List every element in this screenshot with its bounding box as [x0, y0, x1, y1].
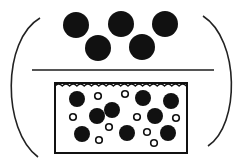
gas-particle: [63, 12, 89, 38]
small-particle: [134, 114, 141, 121]
large-particle: [69, 91, 85, 107]
large-particle: [119, 125, 135, 141]
gas-particle: [152, 11, 178, 37]
small-particle: [106, 124, 113, 131]
large-particle: [135, 90, 151, 106]
small-particle: [70, 114, 77, 121]
large-particle: [160, 125, 176, 141]
small-particle: [96, 137, 103, 144]
large-particle: [147, 108, 163, 124]
liquid-container: [55, 83, 187, 153]
small-particle: [151, 140, 158, 147]
gas-particles: [63, 11, 178, 61]
large-particle: [163, 93, 179, 109]
liquid-surface-wave: [55, 84, 186, 86]
left-parenthesis: [11, 18, 40, 157]
gas-particle: [129, 34, 155, 60]
large-particle: [104, 102, 120, 118]
large-particle: [89, 108, 105, 124]
small-particle: [122, 91, 129, 98]
small-particle: [95, 93, 102, 100]
right-parenthesis: [203, 16, 231, 146]
particle-diagram: [0, 0, 240, 161]
gas-particle: [108, 11, 134, 37]
small-particle: [173, 115, 180, 122]
large-particle: [74, 126, 90, 142]
small-particle: [144, 129, 151, 136]
gas-particle: [85, 35, 111, 61]
